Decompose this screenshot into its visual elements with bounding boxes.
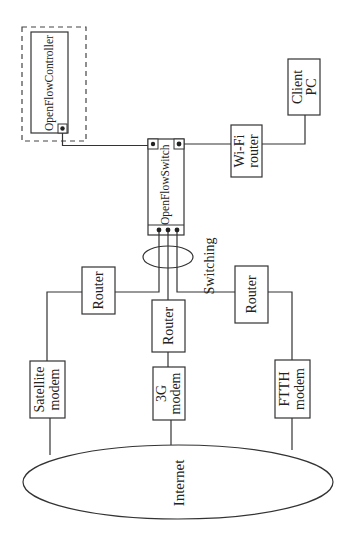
satellite-modem-label-line1: Satellite	[32, 367, 47, 413]
switch-port-left-dot	[151, 142, 155, 146]
router-center-label: Router	[161, 307, 176, 345]
controller-label: OpenFlowController	[43, 35, 56, 131]
ftth-modem-label-line1: FTTH	[277, 372, 292, 407]
wifi-router-label-line2: router	[246, 134, 261, 168]
switch-port-right-dot	[177, 142, 182, 147]
wifi-router-label-line1: Wi-Fi	[232, 134, 247, 167]
switch-bottom-port-1	[157, 228, 162, 233]
internet-label: Internet	[171, 459, 187, 506]
ftth-modem-label-line2: modem	[292, 368, 307, 410]
edge-controller-switch	[63, 133, 150, 146]
network-diagram: OpenFlowController OpenFlowSwitch Wi-Fi …	[0, 0, 355, 539]
edge-router-left-satellite	[47, 292, 82, 361]
edge-wifi-client	[262, 115, 305, 144]
switch-label: OpenFlowSwitch	[159, 144, 172, 225]
switch-bottom-port-3	[175, 228, 180, 233]
3g-modem-label-line1: 3G	[154, 385, 169, 402]
3g-modem-label-line2: modem	[168, 372, 183, 414]
router-right-label: Router	[244, 275, 259, 313]
switching-label: Switching	[202, 238, 217, 295]
edge-router-right-ftth	[268, 292, 292, 361]
router-left-label: Router	[91, 271, 106, 309]
client-pc-label-line2: PC	[304, 78, 319, 95]
client-pc-label-line1: Client	[290, 70, 305, 104]
switch-bottom-port-2	[166, 228, 171, 233]
controller-port-dot	[60, 126, 64, 130]
edge-switch-router-left	[115, 232, 159, 292]
satellite-modem-label-line2: modem	[47, 368, 62, 410]
